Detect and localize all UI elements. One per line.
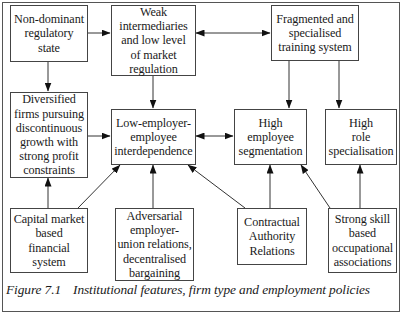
node-weak-intermediaries: Weak intermediaries and low level of mar… <box>111 5 196 76</box>
edge-skill-to-segmentation <box>301 165 330 208</box>
node-adversarial-relations: Adversarial employer- union relations, d… <box>115 208 194 281</box>
edge-contractual-to-interdependence <box>188 165 245 208</box>
node-capital-market-financial-system: Capital market based financial system <box>10 208 88 273</box>
node-fragmented-training-system: Fragmented and specialised training syst… <box>271 5 359 61</box>
node-diversified-firms: Diversified firms pursuing discontinuous… <box>10 92 88 178</box>
node-high-employee-segmentation: High employee segmentation <box>234 109 307 165</box>
node-low-interdependence: Low-employer- employee interdependence <box>111 109 196 165</box>
node-contractual-authority-relations: Contractual Authority Relations <box>237 208 307 265</box>
node-non-dominant-regulatory-state: Non-dominant regulatory state <box>10 5 88 62</box>
node-high-role-specialisation: High role specialisation <box>325 109 397 165</box>
figure-caption: Figure 7.1Institutional features, firm t… <box>6 282 370 298</box>
figure-title: Institutional features, firm type and em… <box>73 282 370 297</box>
node-strong-skill-associations: Strong skill based occupational associat… <box>328 208 397 273</box>
figure-number: Figure 7.1 <box>6 282 61 297</box>
